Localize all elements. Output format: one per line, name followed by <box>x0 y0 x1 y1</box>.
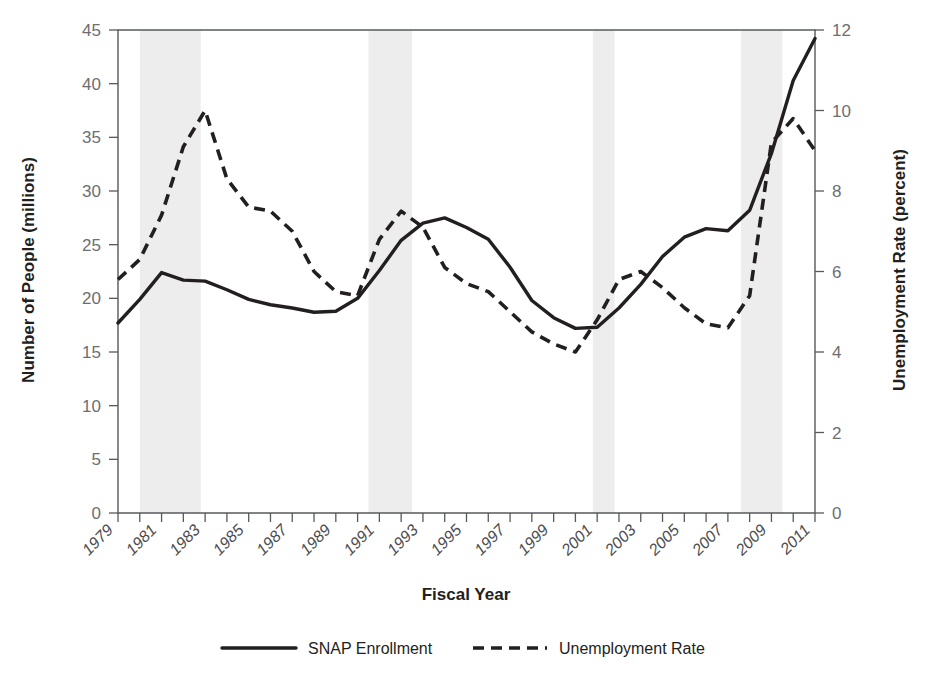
y-tick-label-20: 20 <box>82 289 101 308</box>
x-axis-ticks <box>118 513 815 522</box>
x-tick-label-1993: 1993 <box>384 521 421 558</box>
x-axis-title: Fiscal Year <box>422 585 511 604</box>
y2-tick-label-12: 12 <box>832 21 851 40</box>
x-tick-label-1999: 1999 <box>515 521 552 558</box>
y-tick-label-5: 5 <box>92 450 101 469</box>
y-axis-right-ticks <box>815 30 824 513</box>
x-tick-label-2011: 2011 <box>776 521 813 558</box>
y2-tick-label-6: 6 <box>832 263 841 282</box>
y2-tick-label-8: 8 <box>832 182 841 201</box>
x-tick-label-2001: 2001 <box>557 521 595 559</box>
series-line-unemployment-rate <box>118 111 815 353</box>
y2-tick-label-2: 2 <box>832 424 841 443</box>
series-line-snap-enrollment <box>118 39 815 329</box>
recession-band-group <box>140 30 783 513</box>
x-tick-label-2007: 2007 <box>688 520 727 559</box>
x-tick-label-1987: 1987 <box>253 520 291 558</box>
x-axis-tick-labels: 1979198119831985198719891991199319951997… <box>79 520 813 559</box>
legend-label-unemployment-rate: Unemployment Rate <box>559 640 705 657</box>
x-tick-label-1989: 1989 <box>297 521 334 558</box>
y-axis-right-tick-labels: 024681012 <box>832 21 851 523</box>
chart-legend: SNAP Enrollment Unemployment Rate <box>222 640 705 657</box>
y2-tick-label-4: 4 <box>832 343 841 362</box>
recession-band-1 <box>140 30 201 513</box>
y-tick-label-10: 10 <box>82 397 101 416</box>
recession-band-2 <box>368 30 412 513</box>
x-tick-label-1981: 1981 <box>122 521 159 558</box>
y-tick-label-0: 0 <box>92 504 101 523</box>
x-tick-label-1983: 1983 <box>166 521 203 558</box>
y2-tick-label-0: 0 <box>832 504 841 523</box>
x-tick-label-2005: 2005 <box>645 521 683 559</box>
y-tick-label-40: 40 <box>82 75 101 94</box>
chart-figure: 051015202530354045 024681012 19791981198… <box>0 0 933 682</box>
recession-band-3 <box>593 30 615 513</box>
plot-frame <box>118 30 815 513</box>
plot-border <box>118 30 815 513</box>
y-tick-label-30: 30 <box>82 182 101 201</box>
recession-band-4 <box>741 30 782 513</box>
x-tick-label-2003: 2003 <box>601 521 639 559</box>
y-tick-label-25: 25 <box>82 236 101 255</box>
x-tick-label-1997: 1997 <box>471 520 509 558</box>
line-chart: 051015202530354045 024681012 19791981198… <box>0 0 933 682</box>
x-tick-label-1995: 1995 <box>427 521 464 558</box>
y-axis-left-tick-labels: 051015202530354045 <box>82 21 101 523</box>
legend-label-snap-enrollment: SNAP Enrollment <box>308 640 433 657</box>
data-series-group <box>118 39 815 352</box>
y-axis-left-title: Number of People (millions) <box>19 157 38 383</box>
y-axis-left-ticks <box>109 30 118 513</box>
y-tick-label-35: 35 <box>82 128 101 147</box>
y-tick-label-15: 15 <box>82 343 101 362</box>
x-tick-label-1979: 1979 <box>79 521 116 558</box>
y2-tick-label-10: 10 <box>832 102 851 121</box>
y-axis-right-title: Unemployment Rate (percent) <box>890 149 909 391</box>
y-tick-label-45: 45 <box>82 21 101 40</box>
x-tick-label-1985: 1985 <box>210 521 247 558</box>
x-tick-label-1991: 1991 <box>340 521 377 558</box>
x-tick-label-2009: 2009 <box>732 521 770 559</box>
